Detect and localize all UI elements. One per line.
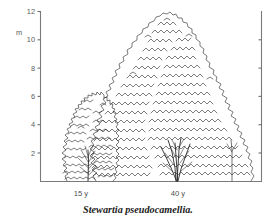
x-label-40y: 40 y xyxy=(171,189,186,198)
y-tick-label-2: 2 xyxy=(31,149,35,158)
y-axis-unit-label: m xyxy=(16,28,22,37)
x-label-15y: 15 y xyxy=(74,189,89,198)
y-tick-label-12: 12 xyxy=(27,7,35,16)
y-tick-label-4: 4 xyxy=(31,120,35,129)
tree-growth-figure: 12 10 8 6 4 2 m 15 y 40 y xyxy=(0,0,276,222)
figure-canvas: 12 10 8 6 4 2 m 15 y 40 y xyxy=(0,0,276,222)
figure-caption: Stewartia pseudocamellia. xyxy=(83,204,193,215)
y-tick-label-10: 10 xyxy=(27,35,35,44)
y-tick-label-6: 6 xyxy=(31,92,35,101)
y-tick-label-8: 8 xyxy=(31,64,35,73)
